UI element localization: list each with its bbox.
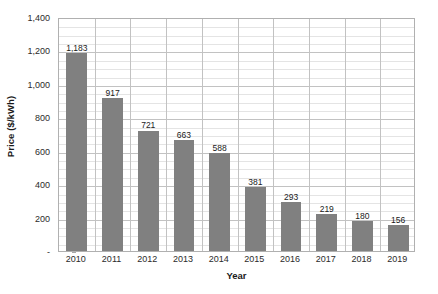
- plot-area: 1,183917721663588381293219180156: [58, 18, 415, 252]
- data-labels-layer: 1,183917721663588381293219180156: [59, 19, 414, 251]
- x-tick-label: 2014: [209, 254, 229, 264]
- x-tick-label: 2019: [387, 254, 407, 264]
- bar-value-label: 721: [141, 120, 155, 130]
- y-tick-label: 600: [35, 147, 50, 157]
- bar-chart: Price ($/kWh) -2004006008001,0001,2001,4…: [0, 0, 438, 294]
- bar-value-label: 663: [177, 130, 191, 140]
- x-tick-label: 2013: [173, 254, 193, 264]
- bar-value-label: 180: [355, 211, 369, 221]
- y-tick-label: 400: [35, 180, 50, 190]
- x-tick-label: 2010: [66, 254, 86, 264]
- bar-value-label: 293: [284, 192, 298, 202]
- y-tick-mark: [72, 252, 76, 253]
- bar-value-label: 588: [213, 143, 227, 153]
- y-tick-label: 200: [35, 214, 50, 224]
- x-tick-label: 2017: [316, 254, 336, 264]
- bar-value-label: 1,183: [66, 43, 87, 53]
- bar-value-label: 219: [320, 204, 334, 214]
- x-tick-label: 2018: [351, 254, 371, 264]
- x-tick-label: 2015: [244, 254, 264, 264]
- y-tick-label: 1,200: [27, 46, 50, 56]
- x-tick-label: 2011: [102, 254, 121, 264]
- y-tick-label: 1,400: [27, 13, 50, 23]
- y-axis-tick-labels: -2004006008001,0001,2001,400: [18, 18, 54, 252]
- x-axis-title: Year: [58, 270, 415, 281]
- y-tick-label: -: [47, 247, 50, 257]
- x-tick-label: 2012: [137, 254, 157, 264]
- y-tick-label: 800: [35, 113, 50, 123]
- y-tick-label: 1,000: [27, 80, 50, 90]
- x-axis-tick-labels: 2010201120122013201420152016201720182019: [58, 254, 415, 270]
- x-tick-label: 2016: [280, 254, 300, 264]
- bar-value-label: 381: [248, 177, 262, 187]
- bar-value-label: 917: [105, 88, 119, 98]
- y-axis-title-text: Price ($/kWh): [6, 95, 17, 156]
- bar-value-label: 156: [391, 215, 405, 225]
